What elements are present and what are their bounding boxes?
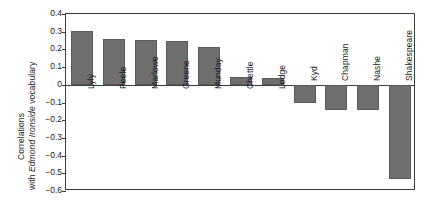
category-label: Munday	[213, 58, 223, 89]
y-axis-tick-labels: 0.40.30.20.10−0.1−0.2−0.3−0.4−0.5−0.6	[36, 0, 62, 211]
bar	[357, 85, 379, 111]
category-label: Peele	[118, 67, 128, 89]
y-tick-mark	[62, 49, 66, 50]
category-label: Lyly	[86, 74, 96, 89]
category-label: Greene	[181, 60, 191, 89]
bar-chart-figure: Correlations with Edmond Ironside vocabu…	[0, 0, 427, 211]
category-label: Shakespeare	[404, 30, 414, 81]
category-label: Kyd	[309, 66, 319, 81]
y-tick-label: −0.2	[36, 114, 62, 124]
y-tick-mark	[62, 14, 66, 15]
y-tick-label: 0.1	[36, 61, 62, 71]
y-tick-mark	[62, 67, 66, 68]
y-tick-label: 0.4	[36, 8, 62, 18]
bar	[294, 85, 316, 104]
y-tick-mark	[62, 138, 66, 139]
category-label: Lodge	[277, 65, 287, 89]
y-axis-title: Correlations with Edmond Ironside vocabu…	[0, 0, 34, 211]
y-tick-label: 0.3	[36, 26, 62, 36]
y-tick-label: −0.4	[36, 150, 62, 160]
y-tick-label: −0.6	[36, 185, 62, 195]
category-label: Chapman	[340, 43, 350, 81]
y-tick-label: 0.2	[36, 43, 62, 53]
y-tick-label: 0	[36, 79, 62, 89]
y-tick-mark	[62, 85, 66, 86]
y-tick-label: −0.5	[36, 167, 62, 177]
category-label: Nashe	[372, 56, 382, 81]
plot-area: LylyPeeleMarloweGreeneMundayChettleLodge…	[65, 13, 415, 190]
category-label: Marlowe	[150, 56, 160, 89]
y-tick-label: −0.3	[36, 132, 62, 142]
y-tick-mark	[62, 120, 66, 121]
y-tick-label: −0.1	[36, 97, 62, 107]
y-tick-mark	[62, 173, 66, 174]
y-tick-mark	[62, 156, 66, 157]
y-axis-title-line-1: Correlations	[16, 113, 26, 160]
category-label: Chettle	[245, 61, 255, 89]
y-tick-mark	[62, 103, 66, 104]
y-tick-mark	[62, 191, 66, 192]
y-tick-mark	[62, 32, 66, 33]
bar	[389, 85, 411, 180]
bar	[325, 85, 347, 111]
